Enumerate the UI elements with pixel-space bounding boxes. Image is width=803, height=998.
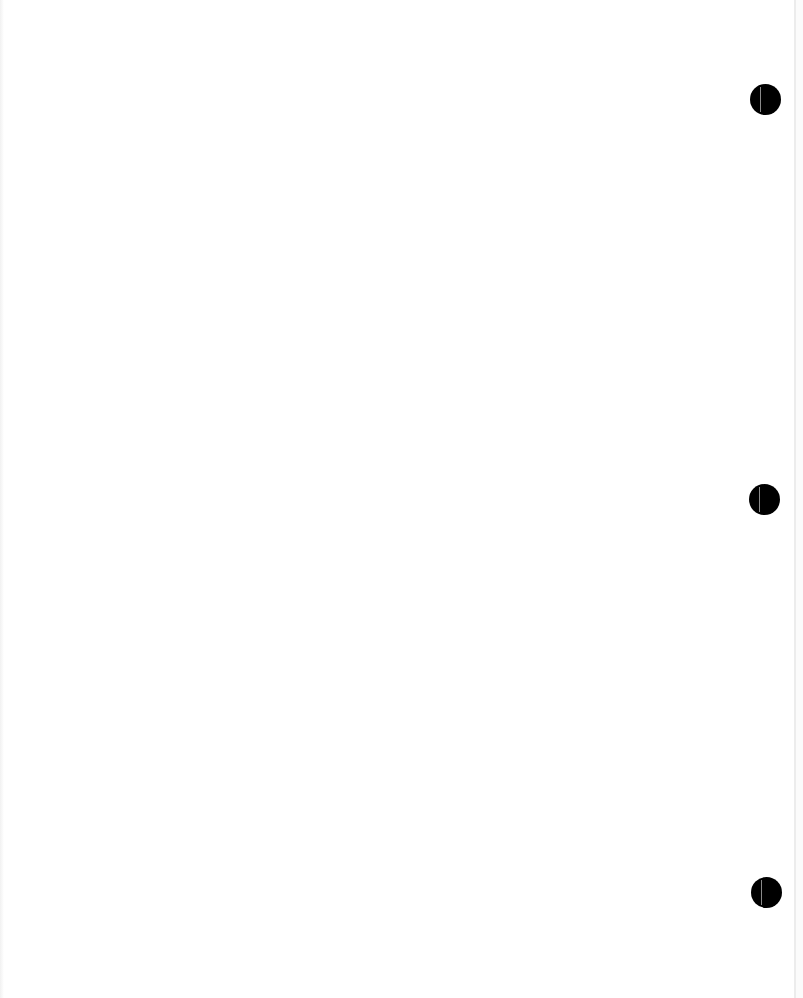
scan-right-margin (796, 0, 803, 998)
punch-hole-middle-icon (749, 484, 780, 515)
scan-left-edge-shadow (0, 0, 4, 998)
punch-hole-top-icon (750, 84, 781, 115)
blank-page (0, 0, 803, 998)
punch-hole-bottom-icon (751, 877, 782, 908)
